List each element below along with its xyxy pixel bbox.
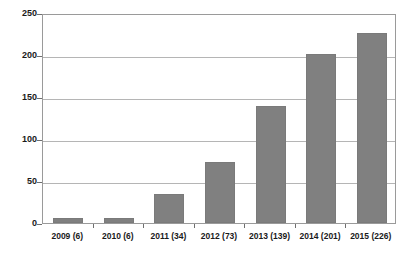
y-tick-label: 200 (5, 51, 37, 60)
y-tick-50 (37, 182, 42, 183)
y-tick-100 (37, 140, 42, 141)
y-tick-0 (37, 224, 42, 225)
y-tick-label: 0 (5, 219, 37, 228)
y-tick-label: 50 (5, 177, 37, 186)
y-tick-label: 100 (5, 135, 37, 144)
y-tick-200 (37, 56, 42, 57)
gridline-100 (43, 141, 395, 142)
x-tick-label-2011: 2011 (34) (143, 231, 194, 242)
x-tick-2 (143, 224, 144, 228)
bar-2015 (357, 33, 387, 223)
bar-2010 (104, 218, 134, 223)
x-tick-3 (194, 224, 195, 228)
x-tick-label-2009: 2009 (6) (42, 231, 93, 242)
bar-2011 (154, 194, 184, 223)
x-tick-5 (295, 224, 296, 228)
x-axis: 2009 (6)2010 (6)2011 (34)2012 (73)2013 (… (42, 231, 396, 247)
y-tick-250 (37, 14, 42, 15)
x-tick-label-2014: 2014 (201) (295, 231, 346, 242)
x-tick-6 (345, 224, 346, 228)
gridline-200 (43, 57, 395, 58)
x-tick-label-2012: 2012 (73) (194, 231, 245, 242)
x-tick-4 (244, 224, 245, 228)
gridline-150 (43, 99, 395, 100)
x-tick-label-2010: 2010 (6) (93, 231, 144, 242)
plot-area (42, 14, 396, 224)
x-tick-label-2015: 2015 (226) (345, 231, 396, 242)
bar-2014 (306, 54, 336, 223)
y-axis: 050100150200250 (0, 0, 37, 259)
bar-chart: 050100150200250 2009 (6)2010 (6)2011 (34… (0, 0, 404, 259)
y-tick-150 (37, 98, 42, 99)
x-tick-1 (93, 224, 94, 228)
bar-2012 (205, 162, 235, 223)
y-tick-label: 150 (5, 93, 37, 102)
x-tick-label-2013: 2013 (139) (244, 231, 295, 242)
bar-2013 (256, 106, 286, 223)
bar-2009 (53, 218, 83, 223)
y-tick-label: 250 (5, 9, 37, 18)
